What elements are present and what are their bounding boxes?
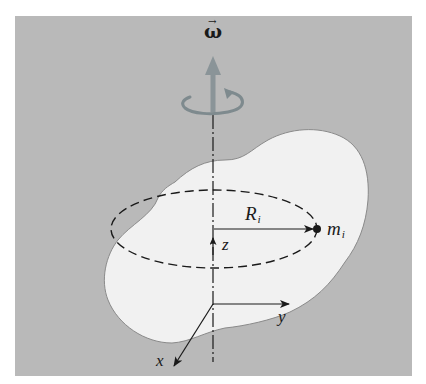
figure-canvas: → ω Ri mi z y x	[0, 0, 426, 384]
angular-velocity-label: → ω	[204, 22, 222, 41]
x-axis-label: x	[156, 352, 164, 369]
y-axis-label: y	[278, 308, 286, 325]
mass-label: mi	[327, 219, 345, 240]
radius-label: Ri	[245, 204, 261, 225]
mass-label-main: m	[327, 218, 341, 239]
vector-arrow-mark: →	[208, 17, 216, 27]
radius-label-main: R	[245, 203, 257, 224]
angular-velocity-arrow	[205, 56, 221, 112]
rigid-body-diagram	[0, 0, 426, 384]
radius-label-subscript: i	[258, 213, 261, 225]
z-axis-label: z	[222, 236, 229, 253]
mass-point	[313, 225, 321, 233]
mass-label-subscript: i	[342, 228, 345, 240]
